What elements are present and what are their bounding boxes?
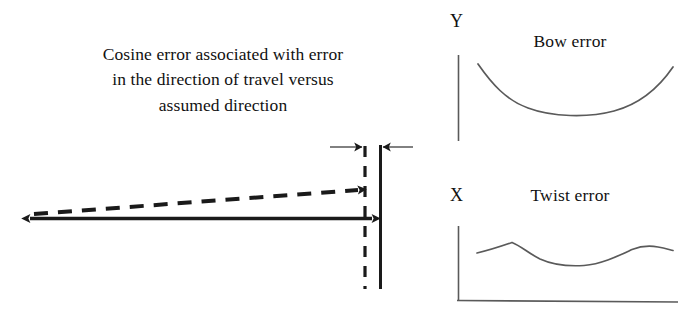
twist-error-curve [477,243,673,266]
cosine-error-figure: Cosine error associated with error in th… [0,0,698,318]
figure-vector-layer [0,0,698,318]
twist-horizontal-axis [457,301,678,303]
assumed-direction-arrow [34,190,358,214]
bow-error-curve [478,64,673,116]
